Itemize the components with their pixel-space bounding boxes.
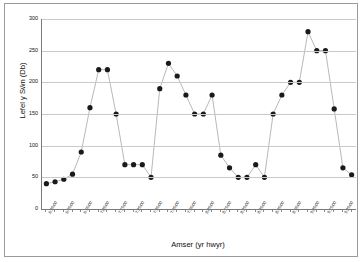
data-point <box>157 86 162 91</box>
data-point <box>122 162 127 167</box>
data-point <box>87 105 92 110</box>
gridline <box>42 146 356 147</box>
data-point <box>183 92 188 97</box>
data-point <box>140 162 145 167</box>
data-point <box>44 181 49 186</box>
data-point <box>105 67 110 72</box>
data-point <box>131 162 136 167</box>
data-point <box>175 73 180 78</box>
data-point <box>332 106 337 111</box>
data-point <box>218 153 223 158</box>
data-point <box>305 29 310 34</box>
chart-frame: Lefel y Sŵn (Db) Amser (yr hwyr) 3002502… <box>4 3 358 257</box>
gridline <box>42 19 356 20</box>
data-point <box>52 179 57 184</box>
data-point <box>209 92 214 97</box>
data-point <box>253 162 258 167</box>
data-point <box>340 165 345 170</box>
noise-level-chart: Lefel y Sŵn (Db) Amser (yr hwyr) 3002502… <box>5 4 359 258</box>
data-point <box>166 61 171 66</box>
data-point <box>70 172 75 177</box>
data-point <box>227 165 232 170</box>
gridline <box>42 114 356 115</box>
gridline <box>42 82 356 83</box>
data-point <box>96 67 101 72</box>
data-point <box>79 149 84 154</box>
gridline <box>42 177 356 178</box>
plot-area <box>41 19 356 210</box>
gridline <box>42 51 356 52</box>
data-point <box>279 92 284 97</box>
